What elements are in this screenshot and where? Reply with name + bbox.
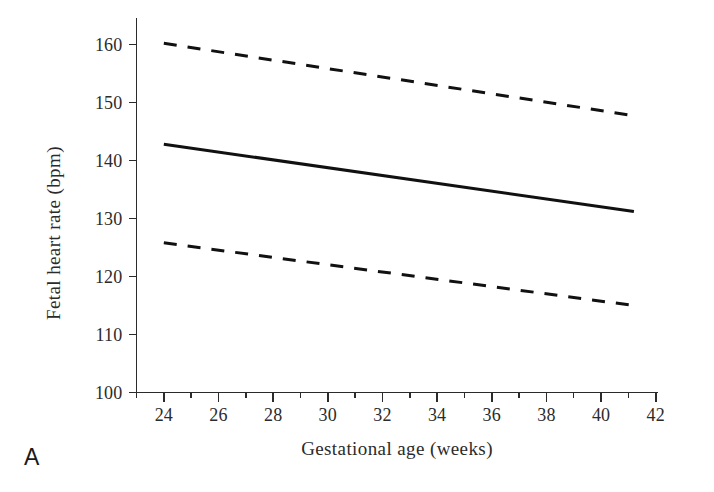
- x-axis-title: Gestational age (weeks): [301, 438, 493, 460]
- chart-figure: 100110120130140150160 242628303234363840…: [0, 0, 714, 492]
- y-axis-tick-label: 100: [95, 383, 123, 403]
- x-axis-tick-label: 40: [592, 405, 610, 425]
- x-axis-tick-label: 28: [264, 405, 282, 425]
- x-axis-tick-label: 30: [319, 405, 337, 425]
- y-axis-tick-label: 160: [95, 35, 123, 55]
- x-axis-tick-label: 24: [155, 405, 173, 425]
- x-axis-tick-label: 38: [537, 405, 555, 425]
- x-axis-tick-label: 26: [209, 405, 227, 425]
- y-axis-tick-label: 130: [95, 209, 123, 229]
- y-axis-tick-label: 110: [96, 325, 123, 345]
- x-axis-tick-label: 34: [428, 405, 446, 425]
- y-axis-tick-label: 140: [95, 151, 123, 171]
- x-axis-tick-label: 42: [647, 405, 665, 425]
- panel-label: A: [24, 444, 40, 470]
- x-axis-tick-label: 36: [483, 405, 501, 425]
- y-axis-tick-label: 120: [95, 267, 123, 287]
- y-axis-tick-label: 150: [95, 93, 123, 113]
- x-axis-tick-label: 32: [373, 405, 391, 425]
- y-axis-title: Fetal heart rate (bpm): [43, 146, 65, 320]
